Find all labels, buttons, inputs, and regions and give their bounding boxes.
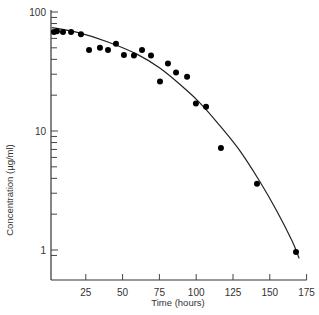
data-point: [113, 41, 119, 47]
data-point: [139, 47, 145, 53]
data-point: [68, 29, 74, 35]
y-tick-label: 10: [35, 126, 47, 137]
y-tick-label: 100: [29, 7, 46, 18]
tick-labels: 255075100125150175110100: [29, 7, 315, 298]
data-point: [131, 53, 137, 59]
data-point: [54, 28, 60, 34]
concentration-time-chart: 255075100125150175110100 Time (hours) Co…: [0, 0, 319, 315]
data-point: [97, 45, 103, 51]
data-point: [193, 101, 199, 107]
data-point: [218, 145, 224, 151]
data-point: [78, 31, 84, 37]
data-point: [86, 47, 92, 53]
data-point: [173, 70, 179, 76]
y-tick-label: 1: [40, 245, 46, 256]
y-axis-title: Concentration (µg/ml): [4, 144, 15, 236]
fitted-curve: [52, 28, 299, 259]
x-tick-label: 125: [225, 287, 242, 298]
data-point: [121, 52, 127, 58]
data-point: [105, 47, 111, 53]
data-points: [51, 28, 299, 255]
data-point: [203, 104, 209, 110]
data-point: [293, 249, 299, 255]
data-point: [148, 53, 154, 59]
data-point: [254, 181, 260, 187]
data-point: [165, 60, 171, 66]
x-tick-label: 50: [117, 287, 129, 298]
data-point: [157, 79, 163, 85]
data-point: [184, 74, 190, 80]
x-tick-label: 150: [261, 287, 278, 298]
x-axis-title: Time (hours): [151, 297, 205, 308]
x-tick-label: 175: [298, 287, 315, 298]
data-point: [60, 29, 66, 35]
x-tick-label: 25: [80, 287, 92, 298]
